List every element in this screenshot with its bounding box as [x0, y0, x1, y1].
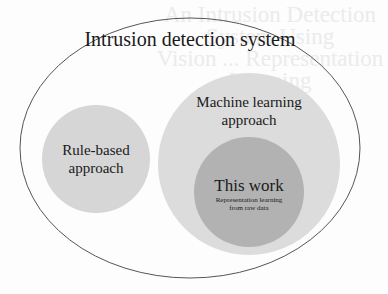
ml-label-line-1: Machine learning: [196, 93, 301, 111]
this-work-sub-line-1: Representation learning: [216, 196, 283, 204]
rule-label-line-1: Rule-based: [62, 141, 129, 159]
label-machine-learning-approach: Machine learning approach: [196, 93, 301, 129]
label-intrusion-detection-system: Intrusion detection system: [84, 28, 295, 51]
rule-label-line-2: approach: [62, 159, 129, 177]
ml-label-line-2: approach: [196, 111, 301, 129]
this-work-sub-line-2: from raw data: [216, 204, 283, 212]
label-rule-based-approach: Rule-based approach: [62, 141, 129, 177]
label-this-work: This work: [214, 177, 283, 194]
label-this-work-subtitle: Representation learning from raw data: [216, 196, 283, 212]
